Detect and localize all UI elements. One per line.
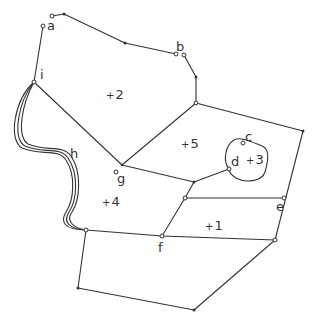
label-e: e — [276, 200, 284, 213]
face-label-5: +5 — [181, 137, 199, 150]
edge-f-right — [162, 236, 275, 240]
vertex-f — [160, 234, 164, 238]
edge-bottom — [78, 230, 275, 310]
edge-right-down — [275, 131, 303, 240]
edge-a-b — [52, 14, 176, 54]
edge-mid-split — [185, 182, 194, 198]
face-label-1: +1 — [205, 219, 223, 232]
vertex-right-bottom — [273, 238, 277, 242]
edge-mid-d — [194, 169, 229, 182]
dot-2 — [124, 42, 127, 45]
vertex-i — [32, 80, 36, 84]
label-b: b — [176, 40, 184, 53]
dot-g-junction — [121, 164, 124, 167]
graph-diagram: a b c d e f g h i +1 +2 +3 +4 +5 — [0, 0, 318, 326]
edge-junction-right — [196, 103, 303, 131]
dot-3 — [195, 76, 198, 79]
label-d: d — [231, 155, 239, 168]
label-c: c — [245, 130, 252, 143]
dot-4 — [302, 130, 305, 133]
edge-split-f — [162, 198, 185, 236]
dot-7 — [193, 309, 196, 312]
edge-g-mid — [122, 165, 194, 182]
face-label-2: +2 — [106, 88, 124, 101]
edge-f-left — [86, 230, 162, 236]
face-label-4: +4 — [102, 195, 120, 208]
label-h: h — [70, 147, 78, 160]
graph-edges — [0, 0, 318, 326]
dot-5 — [193, 181, 196, 184]
dot-1 — [63, 13, 66, 16]
vertex-i-pendant — [41, 24, 45, 28]
vertex-left-bottom — [84, 228, 88, 232]
edge-b-junction — [184, 55, 196, 103]
face-label-3: +3 — [246, 153, 264, 166]
label-f: f — [158, 241, 163, 254]
label-a: a — [47, 19, 55, 32]
vertex-split — [183, 196, 187, 200]
vertex-junction — [194, 101, 198, 105]
edge-junction-g — [122, 103, 196, 165]
label-g: g — [117, 172, 125, 185]
label-i: i — [40, 68, 44, 81]
dot-6 — [77, 287, 80, 290]
